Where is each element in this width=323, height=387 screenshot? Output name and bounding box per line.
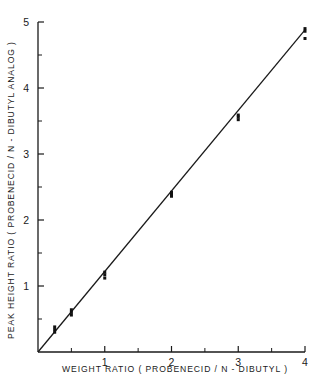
data-point xyxy=(53,325,56,328)
data-point xyxy=(103,271,106,274)
calibration-curve-figure: 123451234 WEIGHT RATIO ( PROBENECID / N … xyxy=(0,0,323,387)
y-tick-label: 1 xyxy=(23,280,29,292)
data-point xyxy=(103,273,106,276)
data-point xyxy=(170,193,173,196)
scatter-plot-canvas: 123451234 WEIGHT RATIO ( PROBENECID / N … xyxy=(0,0,323,387)
data-point xyxy=(53,328,56,331)
data-point xyxy=(237,118,240,121)
data-point xyxy=(70,308,73,311)
y-axis-title: PEAK HEIGHT RATIO ( PROBENECID / N - DIB… xyxy=(6,41,16,339)
tick-labels: 123451234 xyxy=(23,16,308,368)
x-tick-label: 4 xyxy=(302,356,308,368)
data-point xyxy=(304,27,307,30)
y-axis xyxy=(38,22,44,352)
data-point xyxy=(70,311,73,314)
y-tick-label: 4 xyxy=(23,82,29,94)
data-point xyxy=(304,37,307,40)
x-axis-title: WEIGHT RATIO ( PROBENECID / N - DIBUTYL … xyxy=(62,364,288,374)
y-tick-label: 5 xyxy=(23,16,29,28)
data-point xyxy=(237,116,240,119)
x-axis xyxy=(38,346,305,352)
data-point xyxy=(103,277,106,280)
y-tick-label: 3 xyxy=(23,148,29,160)
data-point xyxy=(70,314,73,317)
data-point xyxy=(304,30,307,33)
y-tick-label: 2 xyxy=(23,214,29,226)
data-point xyxy=(53,331,56,334)
